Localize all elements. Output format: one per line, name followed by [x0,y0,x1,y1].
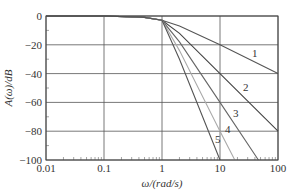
x-tick-label: 10 [215,162,227,174]
y-tick-label: −20 [25,39,43,51]
x-axis-title: ω/(rad/s) [142,177,183,190]
y-tick-label: −60 [25,96,43,108]
y-tick-label: −40 [25,68,43,80]
x-tick-label: 0.1 [97,162,111,174]
curve-label-2: 2 [243,81,249,93]
curve-labels: 12345 [215,47,258,145]
curve-3 [46,16,258,160]
bode-magnitude-chart: 0.010.1110100 0−20−40−60−80−100 12345 A(… [0,0,295,195]
curve-label-5: 5 [215,133,221,145]
y-tick-label: −80 [25,125,43,137]
y-axis-title: A(ω)/dB [2,69,15,107]
y-tick-labels: 0−20−40−60−80−100 [19,10,42,166]
x-tick-label: 100 [270,162,287,174]
curve-4 [46,16,235,160]
curve-label-1: 1 [252,47,258,59]
x-tick-labels: 0.010.1110100 [36,162,286,174]
curve-5 [46,16,220,160]
y-tick-label: 0 [37,10,43,22]
x-tick-label: 1 [159,162,165,174]
curve-label-4: 4 [225,123,231,135]
x-minor-ticks [46,30,275,160]
curve-label-3: 3 [233,107,239,119]
y-tick-label: −100 [19,154,42,166]
